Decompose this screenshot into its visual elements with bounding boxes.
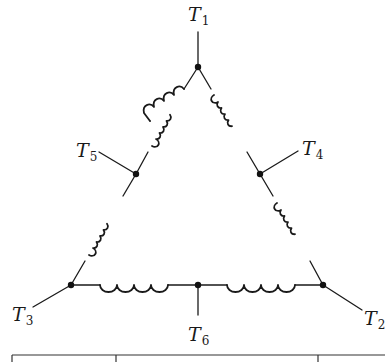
wire-t1-coil-right [198,67,211,89]
lead-t4 [260,151,298,174]
lead-t3 [33,285,71,307]
label-t6: T6 [188,325,209,347]
label-t5: T5 [76,141,97,163]
label-t2: T2 [364,309,385,331]
coil-t4-t2-body [273,203,295,237]
delta-winding-diagram [0,0,385,362]
wire-t5-coil-upper [136,152,148,174]
coil-t5-t3-body [89,224,111,258]
wire-t5-coil-lower [123,174,136,196]
coil-t1-t4-body [210,95,232,129]
coil-t1-t5-body [152,115,174,149]
wire-t4-coil-upper [247,152,260,174]
node-t5 [133,171,139,177]
wire-t3-coil-left [71,261,85,285]
coil-t3-t6 [100,285,168,292]
label-t1: T1 [188,5,209,27]
wire-t4-coil-lower [260,174,273,196]
coil-t6-t2 [227,285,295,292]
label-t3: T3 [12,305,33,327]
node-t4 [257,171,263,177]
node-t1 [195,64,201,70]
label-t4: T4 [302,139,323,161]
coil-t1-t5 [144,67,198,121]
lead-t2 [323,285,362,310]
table-top-edge [12,355,385,362]
wire-t2-coil-right [310,261,323,285]
node-t6 [195,282,201,288]
lead-t5 [99,152,136,174]
node-t3 [68,282,74,288]
node-t2 [320,282,326,288]
